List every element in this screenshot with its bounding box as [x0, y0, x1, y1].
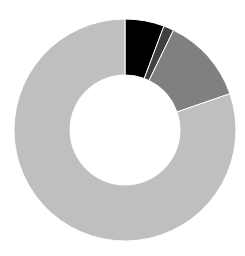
donut-slices [14, 19, 236, 241]
donut-chart [0, 0, 245, 256]
